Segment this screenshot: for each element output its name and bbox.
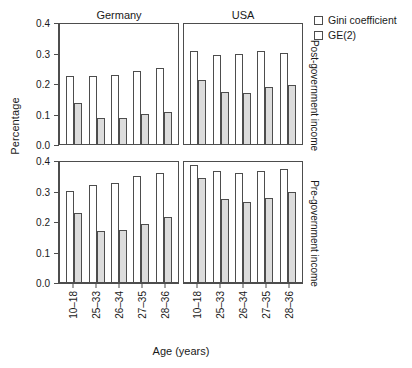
- y-axis-tick-label: 0.2: [36, 79, 50, 90]
- bar-group: [111, 24, 127, 144]
- bar-ge2: [243, 93, 251, 144]
- x-axis-tick: [197, 283, 198, 288]
- y-axis-tick-label: 0.3: [36, 48, 50, 59]
- bar-ge2: [97, 231, 105, 282]
- legend-item-ge2: GE(2): [314, 29, 397, 41]
- bar-group: [111, 162, 127, 282]
- bar-group: [190, 162, 206, 282]
- bar-group: [280, 162, 296, 282]
- bar-group: [257, 24, 273, 144]
- bar-ge2: [265, 198, 273, 282]
- x-axis-tick-label: 27–35: [136, 291, 147, 319]
- bar-gini: [190, 165, 198, 282]
- facet-row-title-post-government: Post-government income: [309, 32, 320, 160]
- bar-group: [235, 162, 251, 282]
- y-axis-tick-label: 0.2: [36, 217, 50, 228]
- bar-gini: [89, 185, 97, 282]
- x-axis-tick: [96, 283, 97, 288]
- bar-gini: [235, 54, 243, 144]
- y-axis-tick-label: 0.4: [36, 156, 50, 167]
- legend-label-ge2: GE(2): [328, 29, 356, 41]
- bar-group: [156, 162, 172, 282]
- bar-gini: [66, 191, 74, 283]
- y-axis-top-row: 0.00.10.20.30.4: [52, 23, 59, 145]
- bar-group: [156, 24, 172, 144]
- legend-swatch-ge2-icon: [314, 31, 323, 40]
- bar-group: [213, 162, 229, 282]
- chart-figure: Percentage Age (years) Germany USA Post-…: [0, 0, 412, 368]
- plot-area: [184, 24, 302, 144]
- bar-ge2: [97, 118, 105, 144]
- bar-gini: [89, 76, 97, 144]
- bar-ge2: [198, 178, 206, 282]
- panel-usa-post-government: [183, 23, 303, 145]
- bar-gini: [133, 176, 141, 282]
- x-axis-tick-label: 26–34: [114, 291, 125, 319]
- x-axis-tick: [288, 283, 289, 288]
- y-axis-tick-label: 0.1: [36, 109, 50, 120]
- x-axis-tick: [220, 283, 221, 288]
- panel-germany-pre-government: [59, 161, 179, 283]
- x-axis-germany: 10–1825–3326–3427–3528–36: [59, 283, 179, 289]
- bar-gini: [156, 68, 164, 144]
- x-axis-tick-label: 28–36: [159, 291, 170, 319]
- bar-ge2: [74, 103, 82, 144]
- facet-column-title-germany: Germany: [59, 9, 179, 21]
- bar-gini: [257, 51, 265, 144]
- bar-group: [89, 162, 105, 282]
- x-axis-tick-label: 25–33: [91, 291, 102, 319]
- y-axis-tick-label: 0.0: [36, 140, 50, 151]
- bar-ge2: [119, 230, 127, 282]
- bar-group: [280, 24, 296, 144]
- plot-area: [184, 162, 302, 282]
- bar-gini: [257, 171, 265, 282]
- y-axis-bottom-row: 0.00.10.20.30.4: [52, 161, 59, 283]
- legend-swatch-gini-icon: [314, 16, 323, 25]
- bar-ge2: [141, 114, 149, 144]
- bar-group: [66, 24, 82, 144]
- legend-label-gini: Gini coefficient: [328, 14, 397, 26]
- x-axis-tick: [265, 283, 266, 288]
- facet-row-title-pre-government: Pre-government income: [309, 170, 320, 298]
- x-axis-tick-label: 10–18: [192, 291, 203, 319]
- bar-gini: [190, 51, 198, 144]
- y-axis-tick-label: 0.0: [36, 278, 50, 289]
- bar-ge2: [221, 199, 229, 282]
- panel-germany-post-government: [59, 23, 179, 145]
- bar-group: [133, 162, 149, 282]
- panel-usa-pre-government: [183, 161, 303, 283]
- x-axis-tick-label: 26–34: [238, 291, 249, 319]
- plot-area: [60, 162, 178, 282]
- y-axis-title: Percentage: [9, 61, 21, 191]
- bar-ge2: [164, 112, 172, 144]
- legend-item-gini-coefficient: Gini coefficient: [314, 14, 397, 26]
- bar-group: [213, 24, 229, 144]
- bar-ge2: [265, 87, 273, 144]
- bar-group: [89, 24, 105, 144]
- bar-group: [190, 24, 206, 144]
- bar-ge2: [221, 92, 229, 144]
- bar-ge2: [288, 192, 296, 282]
- x-axis-tick: [243, 283, 244, 288]
- y-axis-tick-label: 0.1: [36, 247, 50, 258]
- bar-gini: [133, 71, 141, 144]
- chart-legend: Gini coefficient GE(2): [314, 14, 397, 44]
- x-axis-tick: [119, 283, 120, 288]
- bar-ge2: [119, 118, 127, 144]
- y-axis-tick-label: 0.3: [36, 186, 50, 197]
- bar-ge2: [74, 213, 82, 282]
- y-axis-tick: [54, 145, 59, 146]
- bar-ge2: [198, 80, 206, 144]
- bar-gini: [213, 171, 221, 282]
- bar-ge2: [141, 224, 149, 282]
- bar-group: [235, 24, 251, 144]
- plot-area: [60, 24, 178, 144]
- bar-gini: [66, 76, 74, 144]
- x-axis-tick-label: 28–36: [283, 291, 294, 319]
- bar-ge2: [288, 85, 296, 144]
- y-axis-tick-label: 0.4: [36, 18, 50, 29]
- x-axis-title: Age (years): [56, 345, 306, 357]
- x-axis-tick-label: 27–35: [260, 291, 271, 319]
- bar-gini: [235, 173, 243, 282]
- bar-group: [66, 162, 82, 282]
